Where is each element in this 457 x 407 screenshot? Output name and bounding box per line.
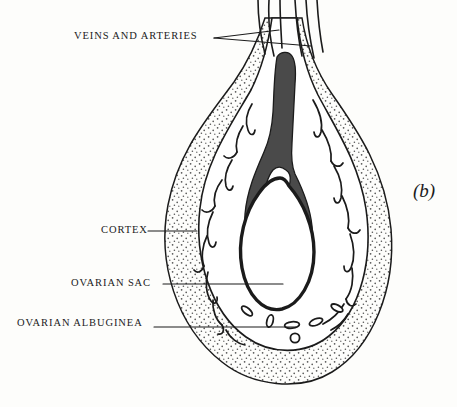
label-ovarian-albuginea: OVARIAN ALBUGINEA: [17, 317, 143, 328]
figure-panel: VEINS AND ARTERIES CORTEX OVARIAN SAC OV…: [0, 0, 457, 407]
figure-panel-marker: (b): [413, 180, 435, 202]
label-cortex: CORTEX: [101, 224, 148, 235]
label-veins-and-arteries: VEINS AND ARTERIES: [74, 30, 198, 41]
label-ovarian-sac: OVARIAN SAC: [71, 277, 151, 288]
ovary-cross-section-illustration: [0, 0, 457, 407]
